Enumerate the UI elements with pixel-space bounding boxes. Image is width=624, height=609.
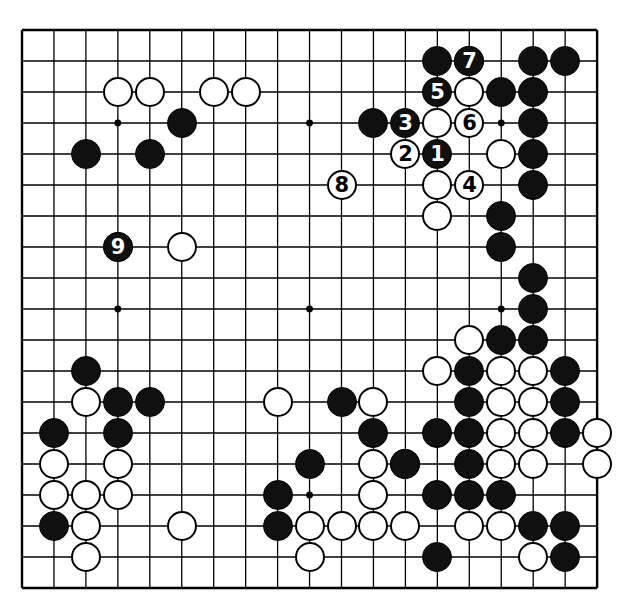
white-stone <box>295 511 325 541</box>
star-point <box>306 120 313 127</box>
black-stone <box>518 263 548 293</box>
go-diagram: 123456789 <box>0 0 624 609</box>
white-stone <box>71 387 101 417</box>
white-stone <box>71 480 101 510</box>
move-number: 6 <box>462 113 476 134</box>
black-stone <box>550 511 580 541</box>
black-stone <box>518 46 548 76</box>
move-number: 2 <box>398 144 412 165</box>
move-number: 7 <box>462 51 476 72</box>
move-number: 4 <box>462 175 476 196</box>
move-number: 9 <box>111 237 125 258</box>
white-stone <box>582 449 612 479</box>
white-stone <box>103 449 133 479</box>
black-stone <box>518 325 548 355</box>
white-stone <box>582 418 612 448</box>
black-stone <box>518 77 548 107</box>
star-point <box>306 492 313 499</box>
black-stone <box>167 108 197 138</box>
star-point <box>306 306 313 313</box>
black-stone <box>518 294 548 324</box>
black-stone <box>327 387 357 417</box>
star-point <box>114 120 121 127</box>
black-stone <box>39 418 69 448</box>
white-stone <box>518 542 548 572</box>
white-stone <box>103 480 133 510</box>
white-stone <box>71 511 101 541</box>
move-number: 1 <box>430 144 444 165</box>
black-stone <box>518 511 548 541</box>
white-stone <box>518 418 548 448</box>
black-stone <box>518 108 548 138</box>
white-stone <box>199 77 229 107</box>
white-stone <box>518 387 548 417</box>
move-stone-9[interactable]: 9 <box>103 232 133 262</box>
black-stone <box>103 418 133 448</box>
white-stone <box>518 449 548 479</box>
black-stone <box>263 480 293 510</box>
star-point <box>498 120 505 127</box>
white-stone <box>231 77 261 107</box>
black-stone <box>518 170 548 200</box>
white-stone <box>71 542 101 572</box>
star-point <box>114 306 121 313</box>
black-stone <box>263 511 293 541</box>
black-stone <box>550 387 580 417</box>
white-stone <box>39 480 69 510</box>
black-stone <box>550 418 580 448</box>
black-stone <box>518 139 548 169</box>
white-stone <box>167 232 197 262</box>
move-number: 8 <box>334 175 348 196</box>
white-stone <box>39 449 69 479</box>
white-stone <box>263 387 293 417</box>
black-stone <box>71 139 101 169</box>
white-stone <box>327 511 357 541</box>
white-stone <box>295 542 325 572</box>
white-stone <box>135 77 165 107</box>
black-stone <box>550 46 580 76</box>
black-stone <box>103 387 133 417</box>
black-stone <box>135 387 165 417</box>
black-stone <box>295 449 325 479</box>
black-stone <box>71 356 101 386</box>
star-point <box>498 306 505 313</box>
white-stone <box>103 77 133 107</box>
black-stone <box>550 542 580 572</box>
move-number: 3 <box>398 113 412 134</box>
black-stone <box>39 511 69 541</box>
black-stone <box>135 139 165 169</box>
white-stone <box>518 356 548 386</box>
move-number: 5 <box>430 82 444 103</box>
move-stone-8[interactable]: 8 <box>327 170 357 200</box>
white-stone <box>167 511 197 541</box>
black-stone <box>550 356 580 386</box>
